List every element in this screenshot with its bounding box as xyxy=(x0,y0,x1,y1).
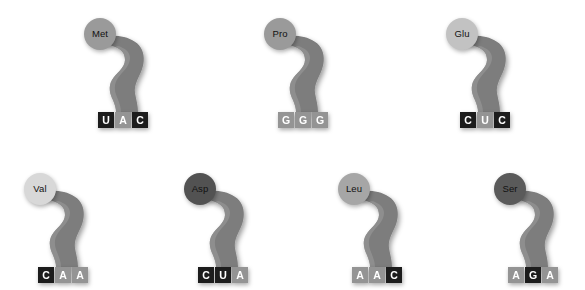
amino-acid-circle-val[interactable]: Val xyxy=(24,173,56,205)
base-tile-1[interactable]: G xyxy=(295,112,311,128)
amino-acid-circle-met[interactable]: Met xyxy=(84,18,116,50)
base-tile-0[interactable]: A xyxy=(508,267,524,283)
anticodon-strip-ggg[interactable]: GGG xyxy=(278,112,328,128)
base-tile-0[interactable]: C xyxy=(38,267,54,283)
base-tile-1[interactable]: A xyxy=(115,112,131,128)
base-tile-0[interactable]: G xyxy=(278,112,294,128)
amino-acid-label: Asp xyxy=(192,184,209,194)
trna-unit-asp[interactable]: Asp CUA xyxy=(168,163,288,288)
trna-unit-leu[interactable]: Leu AAC xyxy=(322,163,442,288)
base-tile-2[interactable]: G xyxy=(312,112,328,128)
anticodon-strip-caa[interactable]: CAA xyxy=(38,267,88,283)
base-tile-0[interactable]: C xyxy=(198,267,214,283)
amino-acid-circle-glu[interactable]: Glu xyxy=(446,18,478,50)
amino-acid-label: Ser xyxy=(502,184,517,194)
anticodon-strip-aac[interactable]: AAC xyxy=(352,267,402,283)
amino-acid-label: Glu xyxy=(454,29,469,39)
trna-unit-val[interactable]: Val CAA xyxy=(8,163,128,288)
anticodon-strip-cuc[interactable]: CUC xyxy=(460,112,510,128)
amino-acid-label: Pro xyxy=(272,29,287,39)
trna-diagram-canvas: Met UAC Pro GGG xyxy=(0,0,585,290)
base-tile-2[interactable]: C xyxy=(494,112,510,128)
base-tile-1[interactable]: U xyxy=(477,112,493,128)
anticodon-strip-aga[interactable]: AGA xyxy=(508,267,558,283)
amino-acid-label: Leu xyxy=(346,184,362,194)
base-tile-0[interactable]: U xyxy=(98,112,114,128)
base-tile-2[interactable]: C xyxy=(386,267,402,283)
amino-acid-circle-leu[interactable]: Leu xyxy=(338,173,370,205)
base-tile-2[interactable]: A xyxy=(72,267,88,283)
base-tile-1[interactable]: A xyxy=(55,267,71,283)
trna-unit-met[interactable]: Met UAC xyxy=(68,8,188,133)
anticodon-strip-uac[interactable]: UAC xyxy=(98,112,148,128)
base-tile-1[interactable]: U xyxy=(215,267,231,283)
base-tile-2[interactable]: A xyxy=(542,267,558,283)
amino-acid-label: Met xyxy=(92,29,108,39)
trna-unit-pro[interactable]: Pro GGG xyxy=(248,8,368,133)
anticodon-strip-cua[interactable]: CUA xyxy=(198,267,248,283)
base-tile-0[interactable]: C xyxy=(460,112,476,128)
amino-acid-label: Val xyxy=(33,184,46,194)
base-tile-2[interactable]: C xyxy=(132,112,148,128)
base-tile-1[interactable]: A xyxy=(369,267,385,283)
base-tile-2[interactable]: A xyxy=(232,267,248,283)
trna-unit-glu[interactable]: Glu CUC xyxy=(430,8,550,133)
base-tile-0[interactable]: A xyxy=(352,267,368,283)
amino-acid-circle-ser[interactable]: Ser xyxy=(494,173,526,205)
amino-acid-circle-pro[interactable]: Pro xyxy=(264,18,296,50)
base-tile-1[interactable]: G xyxy=(525,267,541,283)
trna-unit-ser[interactable]: Ser AGA xyxy=(478,163,585,288)
amino-acid-circle-asp[interactable]: Asp xyxy=(184,173,216,205)
